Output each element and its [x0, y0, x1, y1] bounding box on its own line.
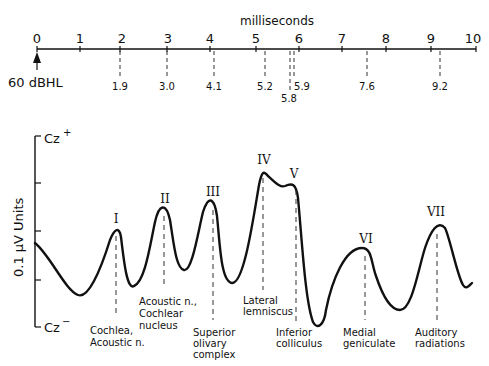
- latency-label: 7.6: [359, 81, 375, 92]
- time-axis-label: milliseconds: [240, 14, 314, 28]
- latency-label: 1.9: [112, 81, 128, 92]
- abr-diagram: milliseconds 0 1 2 3 4 5 6 7 8 10 9 60 d…: [0, 0, 489, 366]
- structure-label-vi-line1: Medial: [343, 327, 376, 338]
- structure-labels: Cochlea, Acoustic n. Acoustic n., Cochle…: [90, 295, 465, 360]
- structure-label-iv-line1: Lateral: [243, 295, 278, 306]
- structure-label-iii-line3: complex: [193, 349, 235, 360]
- tick-label: 7: [338, 31, 346, 46]
- peak-numeral-v: V: [289, 167, 299, 181]
- latency-labels: 1.9 3.0 4.1 5.2 5.8 5.9 7.6 9.2: [112, 81, 448, 104]
- tick-label: 0: [33, 31, 41, 46]
- cz-positive-label: Cz: [44, 131, 60, 146]
- tick-label: 10: [465, 31, 482, 46]
- structure-label-iv-line2: lemniscus: [243, 306, 293, 317]
- tick-label: 2: [118, 31, 126, 46]
- tick-label: 9: [427, 31, 435, 46]
- latency-label: 3.0: [159, 81, 175, 92]
- latency-label: 5.2: [257, 81, 273, 92]
- structure-label-i-line2: Acoustic n.: [90, 337, 145, 348]
- latency-label: 5.9: [294, 81, 310, 92]
- structure-label-ii-line1: Acoustic n.,: [139, 296, 197, 307]
- latency-label: 5.8: [281, 93, 297, 104]
- cz-negative-sign: −: [62, 316, 70, 327]
- structure-label-iii-line1: Superior: [193, 327, 236, 338]
- structure-label-v-line1: Inferior: [276, 327, 313, 338]
- stimulus-label: 60 dBHL: [8, 75, 64, 90]
- peak-numeral-i: I: [114, 212, 119, 226]
- cz-negative-label: Cz: [44, 320, 60, 335]
- tick-label: 8: [382, 31, 390, 46]
- structure-label-ii-line3: nucleus: [139, 320, 178, 331]
- peak-numeral-iv: IV: [257, 153, 271, 167]
- y-axis-label: 0.1 μV Units: [11, 197, 26, 277]
- time-axis-tick-labels: 0 1 2 3 4 5 6 7 8 10 9: [33, 31, 481, 46]
- cz-positive-sign: +: [63, 127, 71, 138]
- tick-label: 1: [76, 31, 84, 46]
- tick-label: 4: [206, 31, 214, 46]
- peak-numerals: I II III IV V VI VII: [114, 153, 446, 246]
- structure-label-iii-line2: olivary: [193, 338, 227, 349]
- structure-label-vi-line2: geniculate: [343, 338, 395, 349]
- tick-label: 6: [295, 31, 303, 46]
- stimulus-arrow-icon: [33, 52, 41, 63]
- peak-numeral-vii: VII: [426, 205, 445, 219]
- tick-label: 5: [252, 31, 260, 46]
- structure-label-ii-line2: Cochlear: [139, 308, 184, 319]
- peak-numeral-ii: II: [160, 192, 170, 206]
- y-axis-ticks: [35, 136, 41, 327]
- structure-label-v-line2: colliculus: [276, 338, 322, 349]
- structure-label-i-line1: Cochlea,: [90, 325, 133, 336]
- latency-label: 4.1: [206, 81, 222, 92]
- structure-label-vii-line2: radiations: [415, 338, 465, 349]
- structure-label-vii-line1: Auditory: [415, 327, 457, 338]
- latency-label: 9.2: [432, 81, 448, 92]
- tick-label: 3: [164, 31, 172, 46]
- peak-numeral-iii: III: [206, 185, 220, 199]
- peak-numeral-vi: VI: [358, 232, 373, 246]
